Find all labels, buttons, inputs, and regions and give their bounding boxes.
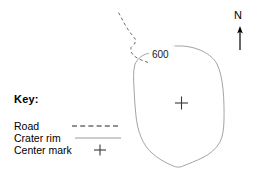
north-letter: N xyxy=(234,9,242,21)
key-label-road: Road xyxy=(14,120,39,132)
key-symbol-center-mark-plus xyxy=(93,144,107,156)
key-symbol-crater-rim-solid-line xyxy=(74,132,122,144)
key-symbol-road-dashed-line xyxy=(71,120,121,132)
key-label-crater-rim: Crater rim xyxy=(14,132,61,144)
key-legend: Road Crater rim Center mark xyxy=(14,120,124,156)
key-title: Key: xyxy=(14,93,39,105)
key-row-crater-rim: Crater rim xyxy=(14,132,124,144)
contour-label-600: 600 xyxy=(152,49,169,60)
key-row-center-mark: Center mark xyxy=(14,144,124,156)
key-row-road: Road xyxy=(14,120,124,132)
key-label-center-mark: Center mark xyxy=(14,144,72,156)
